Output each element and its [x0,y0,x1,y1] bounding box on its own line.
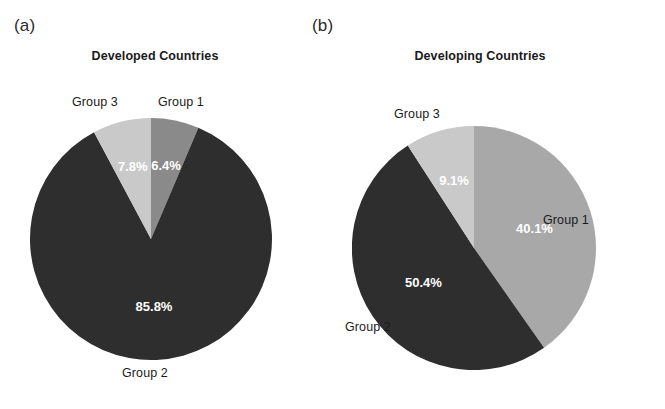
panel-label-b: (b) [312,16,333,36]
pie-category-label-group1-b: Group 1 [543,213,589,227]
pie-value-group1-a: 6.4% [151,158,181,173]
pie-category-label-group1-a: Group 1 [158,95,204,109]
pie-category-label-group2-a: Group 2 [122,366,168,380]
pie-category-label-group3-a: Group 3 [72,95,118,109]
pie-value-group2-b: 50.4% [405,275,442,290]
pie-value-group2-a: 85.8% [136,299,173,314]
pie-value-group3-a: 7.8% [118,159,148,174]
pie-category-label-group3-b: Group 3 [394,107,440,121]
chart-title-developed-countries: Developed Countries [0,49,310,63]
pie-chart-developed-countries: 6.4% 85.8% 7.8% [30,118,272,360]
pie-category-label-group2-b: Group 2 [345,320,391,334]
pie-value-group3-b: 9.1% [439,173,469,188]
chart-title-developing-countries: Developing Countries [330,49,630,63]
panel-label-a: (a) [14,16,35,36]
